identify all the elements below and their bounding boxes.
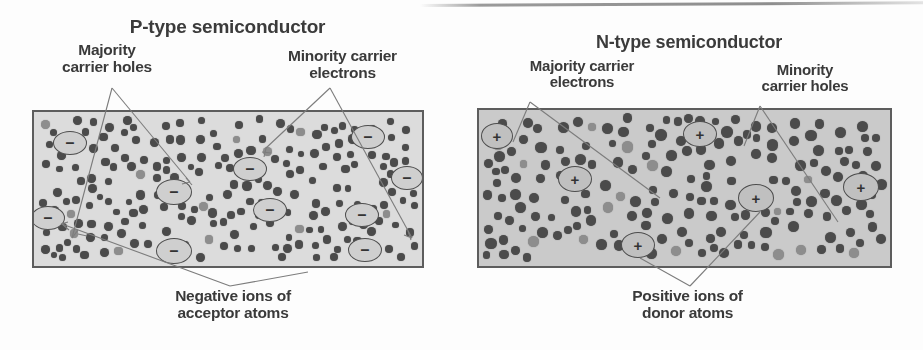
carrier-dot-icon <box>622 141 633 152</box>
carrier-dot-icon <box>845 146 853 154</box>
carrier-dot-icon <box>388 134 395 141</box>
carrier-dot-icon <box>501 166 509 174</box>
carrier-dot-icon <box>706 234 715 243</box>
carrier-dot-icon <box>87 174 96 183</box>
carrier-dot-icon <box>734 136 743 145</box>
carrier-dot-icon <box>677 227 687 237</box>
carrier-dot-icon <box>731 115 740 124</box>
carrier-dot-icon <box>213 143 221 151</box>
carrier-dot-icon <box>817 245 826 254</box>
carrier-dot-icon <box>751 149 760 158</box>
carrier-dot-icon <box>748 241 756 249</box>
carrier-dot-icon <box>623 113 632 122</box>
carrier-dot-icon <box>197 153 206 162</box>
carrier-dot-icon <box>187 216 196 225</box>
carrier-dot-icon <box>771 217 779 225</box>
carrier-dot-icon <box>541 160 551 170</box>
carrier-dot-icon <box>682 146 692 156</box>
carrier-dot-icon <box>121 154 129 162</box>
carrier-dot-icon <box>162 227 171 236</box>
carrier-dot-icon <box>163 166 171 174</box>
carrier-dot-icon <box>651 198 660 207</box>
minus-ion-icon: – <box>156 179 192 205</box>
carrier-dot-icon <box>341 165 350 174</box>
carrier-dot-icon <box>176 119 184 127</box>
carrier-dot-icon <box>272 244 279 251</box>
carrier-dot-icon <box>53 188 62 197</box>
carrier-dot-icon <box>150 138 159 147</box>
carrier-dot-icon <box>769 176 777 184</box>
carrier-dot-icon <box>666 150 677 161</box>
plus-ion-icon: + <box>738 184 774 212</box>
plus-ion-icon: + <box>558 166 592 192</box>
plus-ion-icon: + <box>683 121 717 147</box>
carrier-dot-icon <box>596 239 606 249</box>
carrier-dot-icon <box>685 239 694 248</box>
carrier-dot-icon <box>575 154 586 165</box>
carrier-dot-icon <box>734 240 743 249</box>
carrier-dot-icon <box>387 118 394 125</box>
carrier-dot-icon <box>789 136 800 147</box>
figure-canvas: P-type semiconductor Majority carrier ho… <box>0 0 923 350</box>
carrier-dot-icon <box>402 126 410 134</box>
carrier-dot-icon <box>410 190 417 197</box>
carrier-dot-icon <box>140 156 148 164</box>
carrier-dot-icon <box>196 135 205 144</box>
carrier-dot-icon <box>273 187 282 196</box>
carrier-dot-icon <box>397 253 405 261</box>
carrier-dot-icon <box>498 194 506 202</box>
carrier-dot-icon <box>139 222 146 229</box>
carrier-dot-icon <box>515 202 526 213</box>
carrier-dot-icon <box>331 127 338 134</box>
carrier-dot-icon <box>132 136 140 144</box>
carrier-dot-icon <box>786 208 794 216</box>
carrier-dot-icon <box>121 129 129 137</box>
carrier-dot-icon <box>263 181 272 190</box>
carrier-dot-icon <box>113 209 120 216</box>
n-type-material-box: ++++++ <box>477 108 892 268</box>
carrier-dot-icon <box>716 227 727 238</box>
carrier-dot-icon <box>139 205 148 214</box>
carrier-dot-icon <box>609 140 617 148</box>
carrier-dot-icon <box>105 123 114 132</box>
minus-ion-icon: – <box>233 157 267 181</box>
carrier-dot-icon <box>246 146 255 155</box>
carrier-dot-icon <box>582 142 590 150</box>
carrier-dot-icon <box>235 121 243 129</box>
carrier-dot-icon <box>382 153 390 161</box>
minus-ion-icon: – <box>32 206 65 230</box>
carrier-dot-icon <box>406 228 414 236</box>
carrier-dot-icon <box>286 146 294 154</box>
carrier-dot-icon <box>130 239 139 248</box>
carrier-dot-icon <box>703 172 711 180</box>
panel-p-type: P-type semiconductor Majority carrier ho… <box>0 0 455 350</box>
carrier-dot-icon <box>276 119 285 128</box>
carrier-dot-icon <box>646 124 655 133</box>
carrier-dot-icon <box>383 210 390 217</box>
carrier-dot-icon <box>51 252 58 259</box>
carrier-dot-icon <box>603 202 613 212</box>
carrier-dot-icon <box>520 160 528 168</box>
carrier-dot-icon <box>861 134 869 142</box>
carrier-dot-icon <box>519 135 528 144</box>
carrier-dot-icon <box>825 232 836 243</box>
carrier-dot-icon <box>483 251 491 259</box>
carrier-dot-icon <box>101 234 108 241</box>
carrier-dot-icon <box>761 243 769 251</box>
carrier-dot-icon <box>188 164 195 171</box>
carrier-dot-icon <box>312 199 321 208</box>
carrier-dot-icon <box>88 184 97 193</box>
carrier-dot-icon <box>56 244 63 251</box>
carrier-dot-icon <box>309 177 316 184</box>
carrier-dot-icon <box>121 218 128 225</box>
carrier-dot-icon <box>321 207 330 216</box>
carrier-dot-icon <box>511 173 521 183</box>
carrier-dot-icon <box>628 165 637 174</box>
carrier-dot-icon <box>584 206 592 214</box>
carrier-dot-icon <box>727 177 736 186</box>
carrier-dot-icon <box>296 128 305 137</box>
carrier-dot-icon <box>286 234 293 241</box>
carrier-dot-icon <box>411 202 418 209</box>
carrier-dot-icon <box>163 157 170 164</box>
minus-ion-icon: – <box>348 238 382 262</box>
